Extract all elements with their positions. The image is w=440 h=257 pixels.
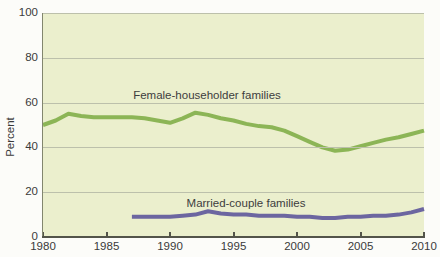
- y-tick-label-100: 100: [4, 6, 38, 19]
- gridline-60: [43, 103, 424, 104]
- y-axis-line: [42, 13, 43, 237]
- x-tick-label-2010: 2010: [404, 240, 440, 253]
- x-tick-label-1990: 1990: [150, 240, 190, 253]
- x-tick-label-1980: 1980: [23, 240, 63, 253]
- gridline-20: [43, 192, 424, 193]
- y-tick-label-60: 60: [4, 96, 38, 109]
- series-line-married-couple: [132, 209, 424, 218]
- y-tick-label-20: 20: [4, 185, 38, 198]
- x-tick-label-2005: 2005: [341, 240, 381, 253]
- y-axis-title: Percent: [3, 107, 17, 167]
- gridline-80: [43, 58, 424, 59]
- series-line-female-householder: [43, 113, 424, 151]
- x-tick-label-2000: 2000: [277, 240, 317, 253]
- x-axis-line: [42, 236, 425, 238]
- gridline-40: [43, 147, 424, 148]
- series-label-female-householder: Female-householder families: [133, 89, 281, 102]
- x-tick-label-1995: 1995: [214, 240, 254, 253]
- x-tick-label-1985: 1985: [87, 240, 127, 253]
- y-tick-label-80: 80: [4, 51, 38, 64]
- gridline-100: [43, 13, 424, 14]
- series-label-married-couple: Married-couple families: [187, 197, 306, 210]
- figure: Percent Female-householder families Marr…: [0, 0, 440, 257]
- y-tick-label-40: 40: [4, 140, 38, 153]
